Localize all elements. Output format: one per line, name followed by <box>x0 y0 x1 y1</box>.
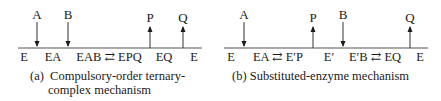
product-label-P: P <box>309 11 316 25</box>
caption-b: (b) Substituted-enzyme mechanism <box>232 69 409 83</box>
species-label-EQ: EQ <box>156 50 173 64</box>
product-label-P: P <box>146 11 153 25</box>
product-label-Q: Q <box>178 11 187 25</box>
species-label-E: E <box>20 50 28 64</box>
substrate-label-B: B <box>64 8 73 22</box>
species-label-EprimeB-EQ: E′B ⇄ EQ <box>349 50 401 64</box>
substrate-label-B: B <box>339 8 348 22</box>
substrate-label-A: A <box>32 8 41 22</box>
species-label-E-final: E <box>190 50 198 64</box>
product-label-Q: Q <box>405 11 414 25</box>
species-label-Eprime: E′ <box>324 50 334 64</box>
substrate-label-A: A <box>239 8 248 22</box>
species-label-EA-EprimeP: EA ⇄ E′P <box>253 50 303 64</box>
caption-a-line1: (a) Compulsory-order ternary- <box>30 69 185 83</box>
caption-a-line2: complex mechanism <box>48 83 151 97</box>
species-label-E-final: E <box>416 50 424 64</box>
panel-compulsory-order: A B P Q E EA EAB ⇄ EPQ EQ E (a) Compulso… <box>0 0 220 101</box>
species-label-EAB-EPQ: EAB ⇄ EPQ <box>76 50 141 64</box>
panel-substituted-enzyme: A P B Q E EA ⇄ E′P E′ E′B ⇄ EQ E (b) Sub… <box>220 0 441 101</box>
species-label-E: E <box>227 50 235 64</box>
species-label-EA: EA <box>45 50 62 64</box>
